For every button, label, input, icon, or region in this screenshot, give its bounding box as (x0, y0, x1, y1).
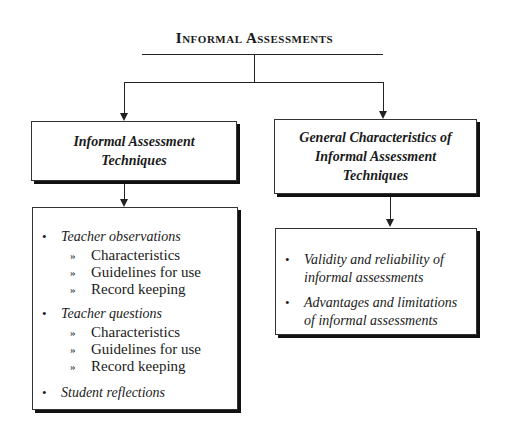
sub-list: Characteristics Guidelines for use Recor… (61, 324, 237, 375)
right-header-box: General Characteristics of Informal Asse… (274, 119, 477, 194)
sub-list-item: Guidelines for use (33, 341, 237, 358)
right-content-connector (390, 197, 391, 220)
list-item: Advantages and limitations of informal a… (276, 294, 468, 330)
list-item: Teacher questions Characteristics Guidel… (33, 305, 237, 375)
sub-list-item: Characteristics (33, 324, 237, 341)
sub-list-item: Guidelines for use (33, 264, 237, 281)
sub-list-item: Record keeping (33, 358, 237, 375)
right-branch-connector (383, 82, 384, 112)
list-item-label: Teacher observations (61, 229, 181, 244)
left-content-arrow-icon (120, 199, 128, 207)
sub-list-item: Characteristics (33, 247, 237, 264)
right-content-box: Validity and reliability of informal ass… (275, 228, 477, 335)
list-item: Validity and reliability of informal ass… (276, 251, 468, 287)
left-content-connector (124, 184, 125, 200)
right-branch-arrow-icon (379, 111, 387, 119)
list-item-label: Validity and reliability of informal ass… (304, 252, 444, 285)
left-technique-list: Teacher observations Characteristics Gui… (33, 228, 237, 402)
list-item-label: Advantages and limitations of informal a… (304, 295, 457, 328)
left-header-text: Informal Assessment Techniques (42, 132, 226, 170)
list-item: Teacher observations Characteristics Gui… (33, 228, 237, 298)
left-header-box: Informal Assessment Techniques (31, 121, 237, 181)
right-content-arrow-icon (386, 219, 394, 227)
root-stem (254, 54, 255, 83)
left-content-box: Teacher observations Characteristics Gui… (32, 207, 238, 410)
branch-bar (124, 82, 384, 83)
list-item: Student reflections (33, 384, 237, 402)
list-item-label: Student reflections (61, 385, 165, 400)
left-branch-arrow-icon (120, 113, 128, 121)
left-branch-connector (124, 82, 125, 114)
right-characteristics-list: Validity and reliability of informal ass… (276, 251, 468, 330)
title-underline (142, 54, 383, 55)
sub-list: Characteristics Guidelines for use Recor… (61, 247, 237, 298)
list-item-label: Teacher questions (61, 306, 162, 321)
diagram-title: Informal Assessments (0, 30, 509, 47)
sub-list-item: Record keeping (33, 281, 237, 298)
right-header-text: General Characteristics of Informal Asse… (285, 128, 466, 185)
